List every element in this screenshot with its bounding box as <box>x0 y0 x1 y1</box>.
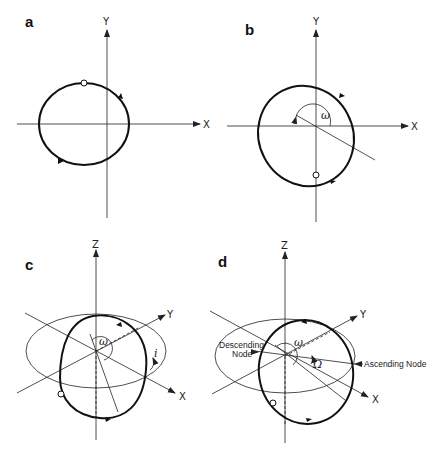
panel-a-label: a <box>25 13 34 30</box>
orbital-elements-figure: a Y X b Y X ω c Z X <box>0 0 434 452</box>
y-axis-label: Y <box>102 16 110 27</box>
panel-d-label: d <box>218 253 227 270</box>
panel-b-label: b <box>245 21 254 38</box>
omega-label: ω <box>294 336 303 349</box>
y-axis-label: Y <box>359 309 367 320</box>
y-axis-label: Y <box>312 16 320 27</box>
x-axis <box>25 313 175 393</box>
apsidal-line <box>296 115 375 160</box>
periapsis-marker <box>58 391 64 397</box>
orbit <box>251 313 362 432</box>
orbit <box>241 69 372 203</box>
y-axis-label: Y <box>166 309 174 320</box>
inclination-label: i <box>154 347 158 360</box>
caption-strip <box>0 444 434 452</box>
line-of-nodes <box>255 351 355 364</box>
apsidal-line <box>275 345 345 400</box>
direction-arrow-icon <box>339 93 345 98</box>
periapsis-marker <box>270 400 276 406</box>
x-axis-label: X <box>411 121 418 132</box>
panel-b: b Y X ω <box>227 16 418 222</box>
omega-label: ω <box>99 335 108 348</box>
periapsis-marker <box>313 172 319 178</box>
periapsis-marker <box>81 80 87 86</box>
omega-label: ω <box>321 109 330 122</box>
panel-a: a Y X <box>17 13 210 218</box>
direction-arrow-icon <box>330 180 336 184</box>
direction-arrow-icon <box>306 418 312 422</box>
panel-d: d Z X Y ω Ω Descending Node Ascending No… <box>210 240 427 443</box>
ascending-node-label: Ascending Node <box>364 359 427 369</box>
x-axis-label: X <box>179 391 186 402</box>
Omega-label: Ω <box>312 358 322 371</box>
x-axis-label: X <box>372 394 379 405</box>
y-axis-hidden <box>285 332 330 356</box>
direction-arrow-icon <box>116 322 122 327</box>
z-axis-label: Z <box>281 240 288 251</box>
z-axis-label: Z <box>92 239 99 250</box>
x-axis-label: X <box>203 119 210 130</box>
descending-node-label-line2: Node <box>232 349 253 359</box>
panel-c: c Z X Y ω i <box>17 239 186 440</box>
direction-arrow-icon <box>118 93 123 99</box>
y-axis <box>17 315 165 393</box>
panel-c-label: c <box>25 256 33 273</box>
